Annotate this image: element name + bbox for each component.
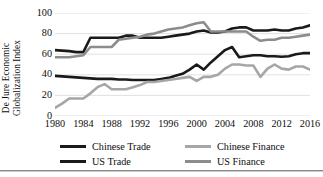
plot-area <box>55 13 310 116</box>
chart-figure: De Jure Economic Globalization Index 020… <box>0 0 323 177</box>
y-axis-tick-label: 80 <box>26 27 52 38</box>
legend-item-us-trade[interactable]: US Trade <box>60 154 131 168</box>
legend-item-chinese-trade[interactable]: Chinese Trade <box>60 139 151 153</box>
series-line-chinese-finance <box>55 65 310 108</box>
y-axis-title-line-2: Globalization Index <box>12 23 23 133</box>
legend-label: US Finance <box>217 156 265 167</box>
series-lines <box>55 22 310 107</box>
y-axis-tick-labels: 020406080100 <box>22 0 52 177</box>
x-axis-tick-label: 2016 <box>293 118 323 129</box>
legend-label: Chinese Trade <box>92 141 151 152</box>
y-axis-tick-label: 100 <box>26 7 52 18</box>
legend-swatch-icon <box>185 160 211 163</box>
legend-swatch-icon <box>185 145 211 148</box>
chart-legend: Chinese TradeChinese FinanceUS TradeUS F… <box>60 139 310 169</box>
x-axis-tick-labels: 1980198419881992199620002004200820122016 <box>55 118 310 132</box>
chart-canvas <box>55 13 310 116</box>
y-axis-title-line-1: De Jure Economic <box>1 23 12 133</box>
legend-swatch-icon <box>60 160 86 163</box>
y-axis-tick-label: 40 <box>26 68 52 79</box>
legend-item-us-finance[interactable]: US Finance <box>185 154 265 168</box>
series-line-us-finance <box>55 22 310 57</box>
bottom-divider-shadow <box>0 171 323 172</box>
y-axis-tick-label: 60 <box>26 48 52 59</box>
legend-item-chinese-finance[interactable]: Chinese Finance <box>185 139 285 153</box>
legend-swatch-icon <box>60 145 86 148</box>
y-axis-tick-label: 20 <box>26 89 52 100</box>
legend-label: Chinese Finance <box>217 141 285 152</box>
legend-label: US Trade <box>92 156 131 167</box>
